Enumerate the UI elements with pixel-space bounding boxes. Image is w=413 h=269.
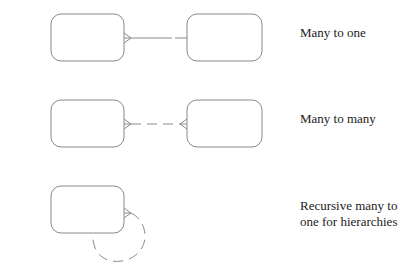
label-many-to-one: Many to one <box>300 25 366 41</box>
label-recursive: Recursive many to one for hierarchies <box>300 198 397 230</box>
entity-box-left <box>51 100 124 147</box>
entity-box-left <box>51 14 124 61</box>
crows-foot-icon <box>180 119 187 129</box>
many-to-many-relationship <box>51 100 262 147</box>
entity-box-right <box>187 100 262 147</box>
entity-box <box>51 186 124 233</box>
crows-foot-icon <box>124 208 131 218</box>
many-to-one-relationship <box>51 14 262 61</box>
entity-box-right <box>187 14 262 61</box>
crows-foot-icon <box>124 33 131 43</box>
crows-foot-icon <box>124 119 131 129</box>
recursive-arc-dashed <box>93 213 145 261</box>
recursive-relationship <box>51 186 145 261</box>
label-many-to-many: Many to many <box>300 111 376 127</box>
